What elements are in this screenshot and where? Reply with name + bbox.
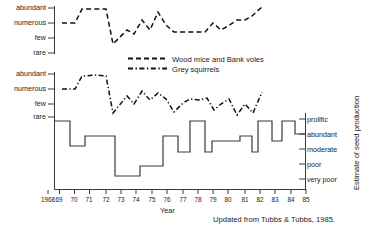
panel3-axis [55, 113, 307, 190]
figure-container: abundant numerous few rare abundant nume… [0, 0, 367, 240]
series-wood-mice-and-bank-voles [62, 7, 262, 44]
series-grey-squirrels [62, 75, 262, 115]
x-axis-ticks [48, 190, 306, 194]
series-estimate-of-seed-production [55, 121, 306, 176]
panel1-axis [48, 6, 55, 54]
chart-canvas [0, 0, 367, 240]
panel2-axis [48, 72, 55, 119]
